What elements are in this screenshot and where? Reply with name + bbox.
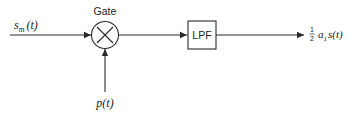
svg-text:2: 2 — [310, 35, 314, 42]
input-signal-label: sm(t) — [14, 18, 38, 34]
carrier-signal-label: p(t) — [95, 96, 113, 110]
multiplier-icon — [92, 22, 119, 49]
svg-text:1: 1 — [310, 26, 314, 33]
svg-text:a1s(t): a1s(t) — [318, 28, 343, 43]
output-signal-label: 1 2 a1s(t) — [310, 26, 344, 43]
gate-label: Gate — [94, 5, 117, 17]
lpf-label: LPF — [192, 29, 211, 41]
block-diagram: sm(t) Gate p(t) LPF 1 2 a1s(t) — [0, 0, 355, 117]
